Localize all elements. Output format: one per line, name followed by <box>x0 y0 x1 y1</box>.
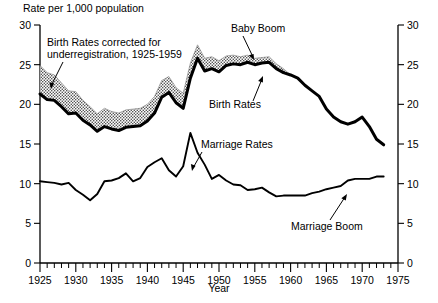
x-tick-label-1955: 1955 <box>243 274 267 286</box>
y-tick-label-left-0: 0 <box>25 257 31 269</box>
x-tick-label-1935: 1935 <box>100 274 124 286</box>
x-tick-label-1940: 1940 <box>136 274 160 286</box>
y-tick-label-left-5: 5 <box>25 217 31 229</box>
y-tick-label-left-25: 25 <box>19 59 31 71</box>
y-tick-label-right-15: 15 <box>407 138 419 150</box>
x-tick-label-1960: 1960 <box>279 274 303 286</box>
y-tick-label-right-5: 5 <box>407 217 413 229</box>
annotation-birth-corrected-line1: Birth Rates corrected for <box>47 36 161 48</box>
x-tick-label-1925: 1925 <box>28 274 52 286</box>
x-tick-label-1930: 1930 <box>64 274 88 286</box>
y-tick-label-right-20: 20 <box>407 98 419 110</box>
x-axis-title: Year <box>208 282 230 294</box>
x-tick-label-1975: 1975 <box>386 274 410 286</box>
chart-container: Rate per 1,000 population 30 25 20 15 10… <box>0 0 438 303</box>
y-tick-label-left-15: 15 <box>19 138 31 150</box>
annotation-marriage-boom-label: Marriage Boom <box>291 220 363 232</box>
y-tick-label-right-25: 25 <box>407 59 419 71</box>
x-tick-label-1945: 1945 <box>172 274 196 286</box>
chart-header-label: Rate per 1,000 population <box>23 2 144 14</box>
x-tick-label-1965: 1965 <box>315 274 339 286</box>
y-tick-label-right-0: 0 <box>407 257 413 269</box>
y-tick-label-right-30: 30 <box>407 19 419 31</box>
birth-marriage-rates-chart: Rate per 1,000 population 30 25 20 15 10… <box>0 0 438 303</box>
x-tick-label-1970: 1970 <box>351 274 375 286</box>
annotation-birth-corrected-line2: underregistration, 1925-1959 <box>47 48 182 60</box>
annotation-marriage-rates-label: Marriage Rates <box>201 138 273 150</box>
y-tick-label-right-10: 10 <box>407 178 419 190</box>
annotation-baby-boom-label: Baby Boom <box>231 22 286 34</box>
y-tick-label-left-10: 10 <box>19 178 31 190</box>
y-tick-label-left-20: 20 <box>19 98 31 110</box>
y-tick-label-left-30: 30 <box>19 19 31 31</box>
